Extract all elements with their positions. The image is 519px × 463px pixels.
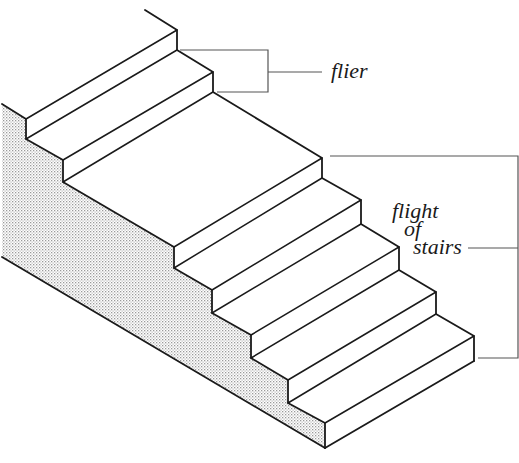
lower-step-2-nosing [212, 200, 361, 290]
staircase-drawing [0, 0, 519, 463]
lower-step-2-riser-base [212, 224, 361, 313]
lower-step-4-riser-base [288, 314, 436, 403]
upper-step-2-nosing [63, 72, 213, 160]
lower-step-5-nosing [325, 336, 474, 423]
flier-bracket [180, 50, 322, 92]
staircase-diagram: flier flight of stairs [0, 0, 519, 463]
lower-step-3-riser-base [251, 270, 399, 358]
upper-step-1-riser-base [26, 50, 177, 139]
lower-step-3-nosing [251, 247, 399, 335]
upper-step-2-riser-base [63, 92, 213, 182]
flight-label-line3: stairs [413, 236, 462, 258]
lower-step-1-riser-base [174, 178, 322, 268]
lower-step-4-nosing [288, 292, 436, 380]
side-face-stippled [2, 104, 325, 448]
flier-label: flier [331, 60, 368, 82]
landing-front-nosing [174, 158, 322, 247]
front-bottom-edge [325, 361, 474, 448]
